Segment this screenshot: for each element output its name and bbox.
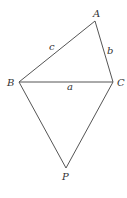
side-label-a: a bbox=[67, 81, 73, 92]
vertex-label-a: A bbox=[92, 8, 100, 19]
side-label-b: b bbox=[107, 45, 113, 56]
side-label-c: c bbox=[49, 41, 55, 52]
edge-bp bbox=[19, 82, 66, 168]
vertex-label-b: B bbox=[6, 77, 14, 88]
vertex-label-c: C bbox=[117, 77, 125, 88]
triangle-diagram: A B C P c b a bbox=[0, 0, 127, 198]
edge-ba bbox=[19, 21, 95, 82]
vertex-label-p: P bbox=[61, 171, 69, 182]
edge-cp bbox=[66, 82, 113, 168]
